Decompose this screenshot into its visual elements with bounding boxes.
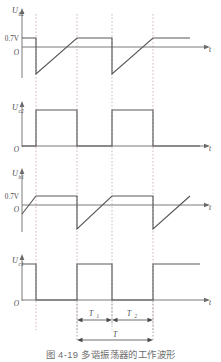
- figure-caption: 图 4-19 多谐振荡器的工作波形: [0, 347, 221, 361]
- dimension-t: T: [77, 330, 153, 343]
- dimension-t1: T 1: [77, 309, 112, 322]
- ub1-origin-label: O: [14, 205, 20, 214]
- dimension-t-label: T: [113, 330, 118, 339]
- dimension-t2-sub: 2: [135, 313, 138, 319]
- ub2-origin-label: O: [14, 48, 20, 57]
- ub1-waveform: [22, 196, 190, 229]
- uc2-label-sub: c2: [19, 108, 24, 114]
- trace-uc1: U c1 O t: [12, 254, 212, 308]
- uc1-t-label: t: [209, 298, 212, 307]
- waveform-svg: U b2 0.7V O t U c2 O t: [0, 0, 221, 348]
- dimension-t1-label: T: [89, 309, 94, 318]
- dimension-lines: T 1 T 2 T: [77, 300, 153, 342]
- uc1-origin-label: O: [14, 299, 20, 308]
- uc2-y-axis-arrow: [20, 101, 25, 107]
- trace-ub2: U b2 0.7V O t: [5, 6, 212, 78]
- ub2-level-label: 0.7V: [5, 35, 20, 43]
- alignment-dotted-lines: [36, 14, 153, 330]
- dimension-t2: T 2: [112, 309, 153, 322]
- waveform-figure: U b2 0.7V O t U c2 O t: [0, 0, 221, 362]
- ub2-t-label: t: [209, 45, 212, 54]
- ub2-waveform: [22, 38, 190, 74]
- uc1-y-axis-arrow: [20, 254, 25, 260]
- ub1-label-sub: b1: [19, 174, 25, 180]
- dimension-t1-sub: 1: [97, 313, 100, 319]
- ub1-t-label: t: [209, 203, 212, 212]
- ub2-label-sub: b2: [19, 11, 25, 17]
- dimension-t2-label: T: [127, 309, 132, 318]
- uc2-waveform: [22, 110, 200, 146]
- uc2-t-label: t: [209, 144, 212, 153]
- uc1-waveform: [22, 264, 200, 300]
- uc1-label-sub: c1: [19, 261, 24, 267]
- ub1-level-label: 0.7V: [5, 193, 20, 201]
- uc2-origin-label: O: [14, 145, 20, 154]
